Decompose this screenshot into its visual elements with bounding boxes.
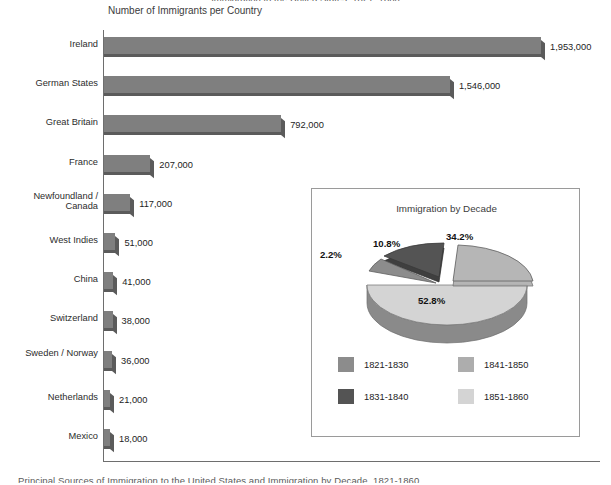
bar-value-label: 18,000 <box>119 434 147 444</box>
bar <box>104 351 112 371</box>
legend-item-1821-1830: 1821-1830 <box>338 357 408 372</box>
bar <box>104 390 110 410</box>
bar-chart-title: Number of Immigrants per Country <box>108 5 262 16</box>
bar-value-label: 792,000 <box>290 120 324 130</box>
bar-category-label: Sweden / Norway <box>0 348 98 359</box>
bar <box>104 429 110 449</box>
pie-label-1831-1840: 10.8% <box>373 238 400 249</box>
bar-category-label: China <box>0 274 98 285</box>
bar-row: Ireland1,953,000 <box>0 33 611 73</box>
pie-legend: 1821-1830 1841-1850 1831-1840 1851-1860 <box>338 357 568 421</box>
bar-category-label: Netherlands <box>0 392 98 403</box>
bar <box>104 272 113 292</box>
bar-value-label: 1,953,000 <box>550 42 591 52</box>
bar <box>104 155 150 175</box>
top-cropped-caption: Immigration to the United States, 1821–1… <box>0 0 611 1</box>
bar-value-label: 21,000 <box>119 395 147 405</box>
bar-category-label: France <box>0 157 98 168</box>
bar <box>104 115 281 135</box>
pie-label-1821-1830: 2.2% <box>320 249 342 260</box>
pie-chart-title: Immigration by Decade <box>312 203 581 214</box>
bar-value-label: 41,000 <box>122 277 150 287</box>
legend-label-1831-1840: 1831-1840 <box>364 392 408 402</box>
bar-category-label: Mexico <box>0 431 98 442</box>
legend-swatch-1831-1840 <box>338 389 354 404</box>
bar <box>104 37 541 57</box>
bar-category-label: Newfoundland /Canada <box>0 191 98 212</box>
bar-row: France207,000 <box>0 151 611 191</box>
bar-category-label: Great Britain <box>0 117 98 128</box>
bar-category-label: Ireland <box>0 39 98 50</box>
bar <box>104 233 115 253</box>
bottom-cropped-caption: Principal Sources of Immigration to the … <box>0 475 611 483</box>
bar-value-label: 38,000 <box>122 316 150 326</box>
legend-label-1821-1830: 1821-1830 <box>364 360 408 370</box>
bar-value-label: 51,000 <box>124 238 152 248</box>
legend-label-1841-1850: 1841-1850 <box>484 360 528 370</box>
bar-row: Great Britain792,000 <box>0 111 611 151</box>
immigration-by-decade-panel: Immigration by Decade 2.2% <box>311 188 580 437</box>
legend-label-1851-1860: 1851-1860 <box>484 392 528 402</box>
legend-swatch-1821-1830 <box>338 357 354 372</box>
pie-label-1841-1850: 34.2% <box>446 231 473 242</box>
legend-item-1851-1860: 1851-1860 <box>458 389 528 404</box>
bar-row: German States1,546,000 <box>0 72 611 112</box>
pie-label-1851-1860: 52.8% <box>418 295 445 306</box>
bar <box>104 76 450 96</box>
bar-value-label: 207,000 <box>159 160 193 170</box>
bar <box>104 194 130 214</box>
bar <box>104 311 113 331</box>
bar-value-label: 117,000 <box>139 199 172 209</box>
bar-category-label: Switzerland <box>0 313 98 324</box>
legend-swatch-1841-1850 <box>458 357 474 372</box>
bar-value-label: 1,546,000 <box>459 81 500 91</box>
bar-category-label: German States <box>0 78 98 89</box>
chart-page: Immigration to the United States, 1821–1… <box>0 0 611 485</box>
pie-chart-graphic: 2.2% 10.8% 34.2% 52.8% <box>312 223 581 348</box>
bar-value-label: 36,000 <box>121 356 149 366</box>
legend-swatch-1851-1860 <box>458 389 474 404</box>
bar-category-label: West Indies <box>0 235 98 246</box>
pie-slice-1841-1850 <box>453 245 533 281</box>
legend-item-1831-1840: 1831-1840 <box>338 389 408 404</box>
legend-item-1841-1850: 1841-1850 <box>458 357 528 372</box>
